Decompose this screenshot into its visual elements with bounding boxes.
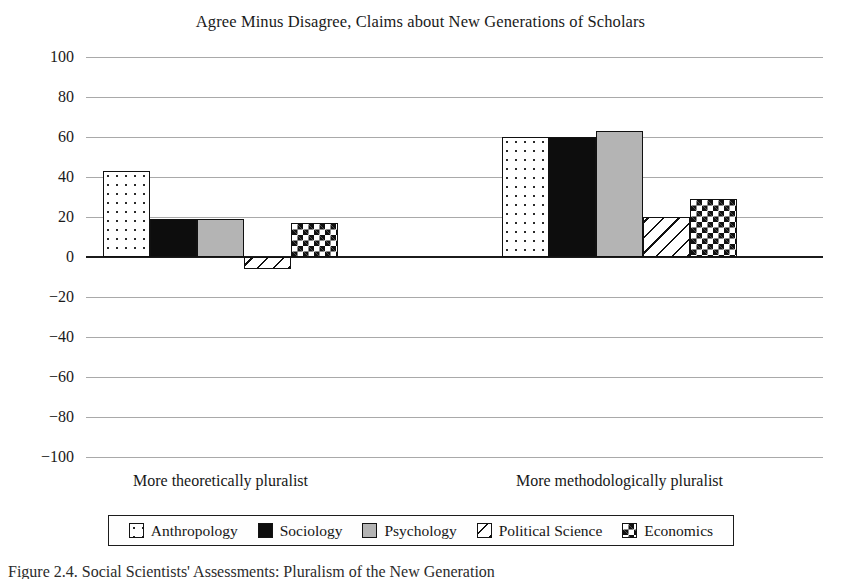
legend-label: Sociology (280, 522, 343, 540)
legend-item-economics[interactable]: Economics (622, 522, 713, 540)
x-axis-category-label: More theoretically pluralist (21, 472, 421, 490)
gridline (86, 337, 823, 338)
gridline (86, 97, 823, 98)
y-axis-tick-label: −100 (18, 449, 74, 465)
legend-item-psychology[interactable]: Psychology (362, 522, 456, 540)
legend-label: Anthropology (151, 522, 238, 540)
bar-anthropology-group-1 (103, 171, 150, 257)
legend-swatch-solid-black-icon (258, 523, 273, 538)
legend-swatch-checkerboard-icon (622, 523, 637, 538)
bar-economics-group-1 (291, 223, 338, 257)
y-axis-tick-label: −80 (18, 409, 74, 425)
y-axis-tick-label: −20 (18, 289, 74, 305)
gridline (86, 57, 823, 58)
y-axis-tick-label: 80 (18, 89, 74, 105)
figure-caption: Figure 2.4. Social Scientists' Assessmen… (8, 563, 841, 579)
plot-area: 100806040200−20−40−60−80−100More theoret… (0, 0, 841, 470)
bar-political-science-group-2 (643, 217, 690, 257)
bar-psychology-group-1 (197, 219, 244, 257)
y-axis-tick-label: 0 (18, 249, 74, 265)
gridline (86, 297, 823, 298)
x-axis-category-label: More methodologically pluralist (420, 472, 820, 490)
gridline (86, 177, 823, 178)
y-axis-tick-label: 20 (18, 209, 74, 225)
legend-label: Political Science (499, 522, 603, 540)
y-axis-tick-label: −40 (18, 329, 74, 345)
bar-economics-group-2 (690, 199, 737, 257)
gridline (86, 457, 823, 458)
legend-swatch-dots-icon (129, 523, 144, 538)
gridline (86, 377, 823, 378)
bar-political-science-group-1 (244, 257, 291, 269)
bar-psychology-group-2 (596, 131, 643, 257)
y-axis-tick-label: 60 (18, 129, 74, 145)
legend-label: Psychology (384, 522, 456, 540)
y-axis-tick-label: 40 (18, 169, 74, 185)
legend-label: Economics (644, 522, 713, 540)
bar-sociology-group-2 (549, 137, 596, 257)
chart-legend: AnthropologySociologyPsychologyPolitical… (108, 515, 734, 546)
bar-sociology-group-1 (150, 219, 197, 257)
y-axis-tick-label: −60 (18, 369, 74, 385)
bar-anthropology-group-2 (502, 137, 549, 257)
gridline (86, 137, 823, 138)
legend-item-political-science[interactable]: Political Science (477, 522, 603, 540)
legend-swatch-diagonal-hatch-icon (477, 523, 492, 538)
legend-item-sociology[interactable]: Sociology (258, 522, 343, 540)
legend-item-anthropology[interactable]: Anthropology (129, 522, 238, 540)
legend-swatch-gray-icon (362, 523, 377, 538)
gridline (86, 417, 823, 418)
figure-container: Agree Minus Disagree, Claims about New G… (0, 0, 841, 579)
y-axis-tick-label: 100 (18, 49, 74, 65)
